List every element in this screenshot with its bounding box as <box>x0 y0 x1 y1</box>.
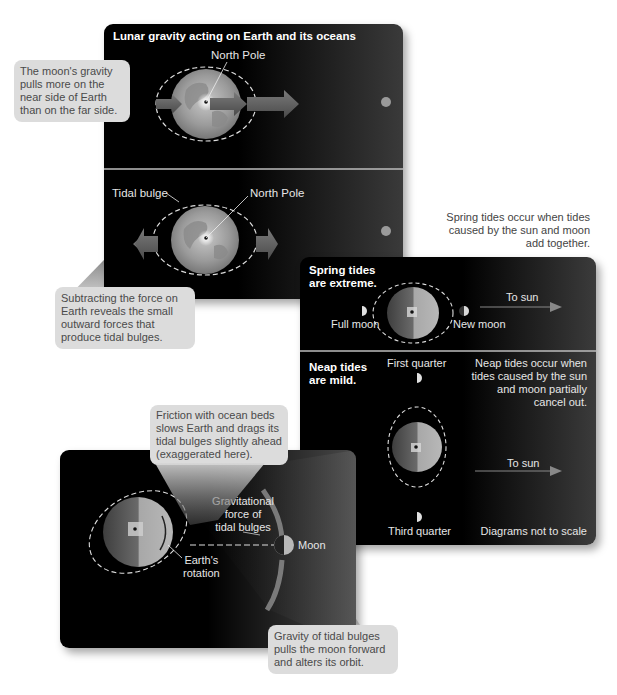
tidal-friction-panel: Gravitational force of tidal bulges Moon… <box>60 450 356 648</box>
north-pole-label: North Pole <box>211 49 265 62</box>
callout-line: Friction with ocean beds <box>156 409 282 422</box>
note-line: caused by the sun and moon <box>400 224 590 237</box>
callout-line: near side of Earth <box>20 91 124 104</box>
moon-icon <box>381 97 391 107</box>
callout-line: outward forces that <box>61 318 189 331</box>
label-line: Gravitational <box>208 495 278 508</box>
title-line: Spring tides <box>309 264 377 277</box>
callout-line: pulls the moon forward <box>274 643 392 656</box>
moon-icon <box>381 226 391 236</box>
title-line: are mild. <box>309 374 367 387</box>
third-quarter-label: Third quarter <box>388 525 451 538</box>
callout-moon-gravity: The moon's gravity pulls more on the nea… <box>14 60 130 122</box>
label-line: tidal bulges <box>208 521 278 534</box>
new-moon-label: New moon <box>453 318 506 331</box>
full-moon-icon <box>362 306 367 316</box>
outward-force-arrow-right <box>256 228 278 260</box>
to-sun-arrow-head <box>550 302 562 312</box>
neap-tides-title: Neap tides are mild. <box>309 361 367 387</box>
callout-line: than on the far side. <box>20 104 124 117</box>
grav-force-label: Gravitational force of tidal bulges <box>208 495 278 534</box>
note-line: Neap tides occur when <box>471 357 587 370</box>
title-line: Neap tides <box>309 361 367 374</box>
north-pole-dot <box>414 445 418 449</box>
third-quarter-moon-icon <box>417 512 422 522</box>
callout-gravity-bulges: Gravity of tidal bulges pulls the moon f… <box>268 625 398 674</box>
note-line: tides caused by the sun <box>471 370 587 383</box>
callout-line: Subtracting the force on <box>61 292 189 305</box>
north-pole-dot <box>133 527 137 531</box>
to-sun-label: To sun <box>507 457 539 470</box>
callout-line: tidal bulges slightly ahead <box>156 435 282 448</box>
callout-line: Earth reveals the small <box>61 305 189 318</box>
callout-line: and alters its orbit. <box>274 656 392 669</box>
north-pole-label: North Pole <box>250 187 304 200</box>
callout-subtracting: Subtracting the force on Earth reveals t… <box>55 287 195 349</box>
label-line: rotation <box>183 567 220 580</box>
title-line: are extreme. <box>309 277 377 290</box>
callout-line: (exaggerated here). <box>156 448 282 461</box>
note-line: cancel out. <box>471 396 587 409</box>
note-line: Spring tides occur when tides <box>400 211 590 224</box>
earth-rotation-label: Earth's rotation <box>183 554 220 580</box>
callout-friction: Friction with ocean beds slows Earth and… <box>150 405 288 465</box>
to-sun-arrow-head <box>550 466 562 476</box>
label-line: force of <box>208 508 278 521</box>
north-pole-dot <box>410 310 414 314</box>
scale-note: Diagrams not to scale <box>481 525 587 538</box>
callout-line: Gravity of tidal bulges <box>274 630 392 643</box>
callout-line: slows Earth and drags its <box>156 422 282 435</box>
spring-tides-note: Spring tides occur when tides caused by … <box>400 211 590 250</box>
first-quarter-label: First quarter <box>387 357 446 370</box>
panel-title: Lunar gravity acting on Earth and its oc… <box>113 30 356 43</box>
callout-line: produce tidal bulges. <box>61 331 189 344</box>
first-quarter-moon-icon <box>417 373 422 383</box>
full-moon-label: Full moon <box>331 318 379 331</box>
label-line: Earth's <box>183 554 220 567</box>
tidal-bulge-leader <box>166 193 179 202</box>
earth-rotation-leader <box>168 545 182 558</box>
new-moon-lit-icon <box>464 306 469 316</box>
to-sun-label: To sun <box>506 291 538 304</box>
note-line: and moon partially <box>471 383 587 396</box>
note-line: add together. <box>400 237 590 250</box>
neap-tides-note: Neap tides occur when tides caused by th… <box>471 357 587 409</box>
callout-line: pulls more on the <box>20 78 124 91</box>
tidal-bulge-label: Tidal bulge <box>112 187 168 200</box>
light-beam <box>170 450 356 648</box>
moon-label: Moon <box>298 539 326 552</box>
spring-tides-title: Spring tides are extreme. <box>309 264 377 290</box>
callout-line: The moon's gravity <box>20 65 124 78</box>
